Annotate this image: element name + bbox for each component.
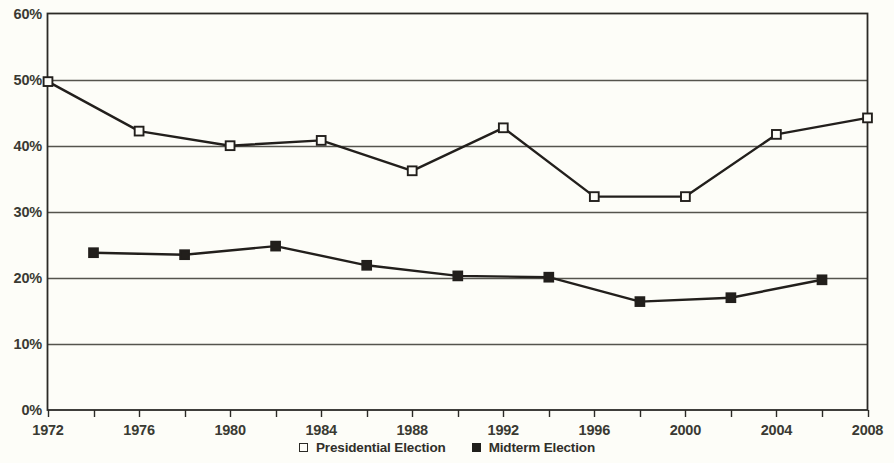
data-point-marker[interactable] [499, 123, 508, 132]
data-point-marker[interactable] [727, 293, 736, 302]
x-tick-label: 1976 [104, 423, 174, 438]
data-point-marker[interactable] [271, 242, 280, 251]
y-tick-label: 50% [0, 73, 42, 88]
legend-item-presidential[interactable]: Presidential Election [299, 440, 446, 455]
data-point-marker[interactable] [89, 248, 98, 257]
x-tick-label: 1972 [13, 423, 83, 438]
data-point-marker[interactable] [453, 272, 462, 281]
x-tick-label: 1980 [195, 423, 265, 438]
legend-item-midterm[interactable]: Midterm Election [472, 440, 595, 455]
x-tick-label: 1992 [468, 423, 538, 438]
chart-plot-area [0, 0, 894, 463]
x-tick-label: 1996 [559, 423, 629, 438]
data-point-marker[interactable] [818, 275, 827, 284]
data-point-marker[interactable] [180, 250, 189, 259]
data-point-marker[interactable] [772, 130, 781, 139]
x-tick-label: 1988 [377, 423, 447, 438]
x-tick-label: 2004 [741, 423, 811, 438]
open-square-marker-icon [299, 443, 308, 452]
y-tick-label: 40% [0, 139, 42, 154]
y-tick-label: 30% [0, 205, 42, 220]
data-point-marker[interactable] [544, 273, 553, 282]
filled-square-marker-icon [472, 443, 481, 452]
chart-legend: Presidential Election Midterm Election [0, 440, 894, 455]
legend-label-midterm: Midterm Election [489, 440, 595, 455]
data-point-marker[interactable] [362, 261, 371, 270]
data-point-marker[interactable] [408, 166, 417, 175]
data-point-marker[interactable] [317, 136, 326, 145]
x-tick-label: 2008 [833, 423, 894, 438]
data-point-marker[interactable] [863, 114, 872, 123]
legend-label-presidential: Presidential Election [316, 440, 446, 455]
x-tick-label: 2000 [650, 423, 720, 438]
data-point-marker[interactable] [590, 192, 599, 201]
y-tick-label: 60% [0, 7, 42, 22]
data-point-marker[interactable] [44, 77, 53, 86]
data-point-marker[interactable] [135, 127, 144, 136]
x-tick-label: 1984 [286, 423, 356, 438]
y-tick-label: 10% [0, 337, 42, 352]
data-point-marker[interactable] [681, 192, 690, 201]
y-tick-label: 20% [0, 271, 42, 286]
chart-container: 0%10%20%30%40%50%60% 1972197619801984198… [0, 0, 894, 463]
y-tick-label: 0% [0, 403, 42, 418]
chart-background [0, 0, 894, 463]
data-point-marker[interactable] [636, 297, 645, 306]
data-point-marker[interactable] [226, 141, 235, 150]
